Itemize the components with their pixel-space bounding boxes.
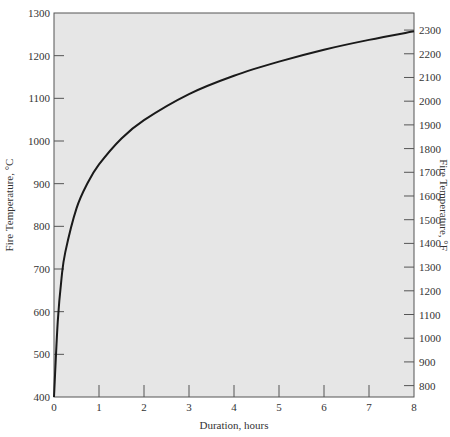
right-tick-label: 2300: [419, 24, 442, 36]
left-tick-label: 500: [34, 348, 51, 360]
left-tick-label: 1300: [28, 7, 51, 19]
right-tick-label: 1000: [419, 332, 442, 344]
fire-temperature-chart: 4005006007008009001000110012001300 80090…: [0, 0, 450, 437]
left-tick-label: 600: [34, 306, 51, 318]
y-axis-title-right: Fire Temperature, °F: [438, 159, 450, 251]
bottom-tick-label: 6: [321, 401, 327, 413]
right-tick-label: 2100: [419, 71, 442, 83]
bottom-tick-label: 0: [51, 401, 57, 413]
bottom-tick-label: 1: [96, 401, 102, 413]
plot-area: [54, 13, 414, 397]
bottom-tick-label: 8: [411, 401, 417, 413]
left-tick-label: 400: [34, 391, 51, 403]
left-tick-label: 900: [34, 178, 51, 190]
bottom-tick-label: 7: [366, 401, 372, 413]
left-tick-label: 700: [34, 263, 51, 275]
right-tick-label: 1900: [419, 119, 442, 131]
right-tick-label: 900: [419, 356, 436, 368]
left-tick-label: 1100: [28, 92, 50, 104]
left-tick-label: 1000: [28, 135, 51, 147]
right-tick-label: 800: [419, 380, 436, 392]
right-tick-label: 1300: [419, 261, 442, 273]
bottom-tick-label: 5: [276, 401, 282, 413]
bottom-tick-label: 4: [231, 401, 237, 413]
right-tick-label: 1200: [419, 285, 442, 297]
x-axis-title: Duration, hours: [199, 419, 268, 431]
left-tick-label: 1200: [28, 50, 51, 62]
right-tick-label: 1100: [419, 309, 441, 321]
right-tick-label: 2200: [419, 48, 442, 60]
bottom-tick-label: 2: [141, 401, 147, 413]
bottom-tick-label: 3: [186, 401, 192, 413]
y-axis-title-left: Fire Temperature, °C: [3, 159, 15, 252]
right-tick-label: 2000: [419, 95, 442, 107]
right-tick-label: 1800: [419, 143, 442, 155]
left-tick-label: 800: [34, 220, 51, 232]
